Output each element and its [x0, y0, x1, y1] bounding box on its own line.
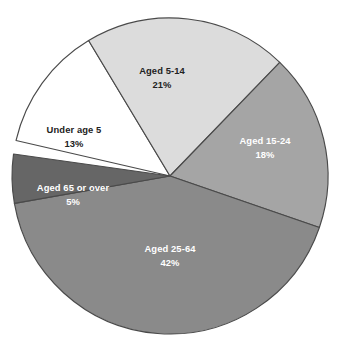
slice-label-2: Aged 5-14 [139, 65, 185, 76]
pie-chart-svg: Under age 513%Aged 5-1421%Aged 15-2418%A… [0, 0, 342, 349]
slice-value-1: 13% [65, 138, 84, 149]
slice-label-3: Aged 15-24 [239, 135, 291, 146]
slice-value-5: 5% [66, 196, 80, 207]
slice-label-1: Under age 5 [47, 124, 102, 135]
slice-label-4: Aged 25-64 [144, 243, 196, 254]
slice-value-3: 18% [256, 149, 275, 160]
slice-value-2: 21% [153, 79, 172, 90]
slice-value-4: 42% [161, 257, 180, 268]
pie-chart-figure: Under age 513%Aged 5-1421%Aged 15-2418%A… [0, 0, 342, 349]
slice-label-5: Aged 65 or over [37, 182, 110, 193]
